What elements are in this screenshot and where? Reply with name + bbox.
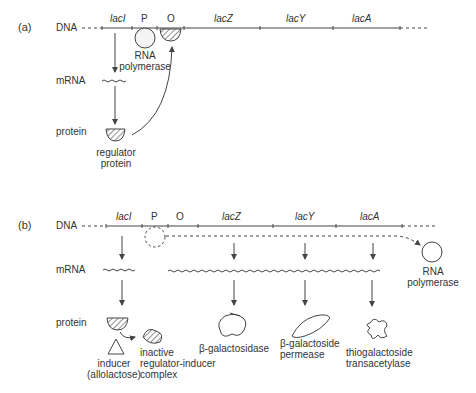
transacetylase-label-2: transacetylase	[346, 358, 411, 369]
row-label-mrna: mRNA	[56, 264, 86, 275]
inducer-label-2: (allolactose)	[87, 369, 141, 380]
rna-polymerase-start-icon	[145, 227, 165, 247]
dna-strand	[82, 26, 430, 30]
gene-laca: lacA	[360, 211, 380, 222]
permease-icon	[292, 315, 330, 338]
dna-strand	[82, 224, 436, 228]
rna-polymerase-label-1: RNA	[422, 266, 443, 277]
panel-b-label: (b)	[18, 219, 31, 231]
permease-label-2: permease	[280, 349, 325, 360]
gene-promoter: P	[141, 13, 148, 24]
gene-laci: lacI	[110, 13, 126, 24]
row-label-protein: protein	[56, 317, 87, 328]
complex-label-2: regulator-inducer	[140, 358, 216, 369]
rna-polymerase-label-2: polymerase	[119, 61, 171, 72]
rna-polymerase-label-1: RNA	[134, 50, 155, 61]
regulator-label-1: regulator	[96, 147, 136, 158]
permease-label-1: β-galactoside	[280, 338, 340, 349]
row-label-mrna: mRNA	[56, 75, 86, 86]
regulator-label-2: protein	[101, 158, 132, 169]
panel-a: (a) DNA mRNA protein lacI P O lacZ lacY …	[18, 13, 430, 169]
gene-operator: O	[167, 13, 175, 24]
bound-repressor-icon	[160, 29, 181, 41]
galactosidase-icon	[219, 313, 246, 336]
rna-polymerase-icon	[422, 242, 442, 262]
panel-b: (b) DNA mRNA protein lacI P O lacZ lacY …	[18, 211, 459, 380]
gene-lacz: lacZ	[214, 13, 234, 24]
mrna-laci-wave	[103, 269, 135, 271]
inactive-complex-icon	[143, 329, 162, 343]
panel-a-label: (a)	[18, 21, 31, 33]
rna-polymerase-icon	[135, 28, 155, 48]
transacetylase-icon	[367, 319, 387, 338]
rna-polymerase-label-2: polymerase	[407, 277, 459, 288]
lac-operon-diagram: (a) DNA mRNA protein lacI P O lacZ lacY …	[0, 0, 476, 393]
transcription-path-arrow	[166, 236, 420, 245]
inducer-label-1: inducer	[98, 358, 131, 369]
gene-promoter: P	[151, 211, 158, 222]
complex-label-3: complex	[140, 369, 177, 380]
gene-lacy: lacY	[286, 13, 307, 24]
regulator-protein-icon	[106, 129, 125, 141]
mrna-polycistronic-wave	[168, 270, 380, 272]
arrow-binding	[120, 332, 135, 338]
gene-lacy: lacY	[295, 211, 316, 222]
mrna-laci-wave	[102, 80, 126, 82]
regulator-protein-icon	[107, 318, 128, 330]
row-label-protein: protein	[56, 126, 87, 137]
gene-operator: O	[176, 211, 184, 222]
row-label-dna: DNA	[56, 22, 77, 33]
row-label-dna: DNA	[56, 220, 77, 231]
inducer-icon	[108, 339, 124, 354]
gene-lacz: lacZ	[222, 211, 242, 222]
gene-laci: lacI	[116, 211, 132, 222]
gene-laca: lacA	[352, 13, 372, 24]
complex-label-1: inactive	[140, 347, 174, 358]
transacetylase-label-1: thiogalactoside	[346, 347, 413, 358]
galactosidase-label: β-galactosidase	[199, 343, 270, 354]
